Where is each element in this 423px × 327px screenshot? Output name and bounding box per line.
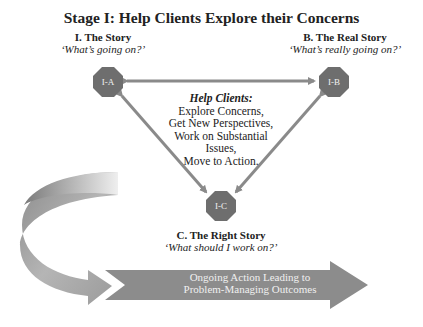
node-c-heading: C. The Right Story (146, 229, 296, 241)
center-line-5: Move to Action. (136, 155, 306, 168)
octagon-node-a: I-A (93, 67, 123, 97)
arrow-text-line-1: Ongoing Action Leading to (150, 271, 350, 283)
node-c-label: C. The Right Story ‘What should I work o… (146, 229, 296, 253)
octagon-node-b: I-B (319, 67, 349, 97)
center-help-clients: Help Clients: Explore Concerns, Get New … (136, 92, 306, 167)
ongoing-action-text: Ongoing Action Leading to Problem-Managi… (150, 271, 350, 295)
center-line-1: Explore Concerns, (136, 105, 306, 118)
center-line-4: Issues, (136, 142, 306, 155)
arrow-text-line-2: Problem-Managing Outcomes (150, 283, 350, 295)
octagon-node-c: I-C (206, 191, 236, 221)
center-line-2: Get New Perspectives, (136, 117, 306, 130)
node-c-question: ‘What should I work on?’ (146, 241, 296, 253)
center-heading: Help Clients: (136, 92, 306, 105)
node-a-id: I-A (102, 77, 115, 87)
curved-return-arrow (20, 172, 118, 305)
node-c-id: I-C (215, 201, 227, 211)
node-b-id: I-B (328, 77, 340, 87)
center-line-3: Work on Substantial (136, 130, 306, 143)
